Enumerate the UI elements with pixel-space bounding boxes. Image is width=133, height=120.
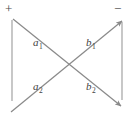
polarity-minus-sign: − [114, 2, 121, 15]
diagonal-downward-arrow [13, 19, 121, 106]
label-a2: a2 [33, 81, 42, 92]
label-b2-base: b [86, 80, 92, 92]
diagram-canvas [0, 0, 133, 120]
diagonal-upward-arrow [11, 21, 122, 112]
label-b1-subscript: 1 [92, 42, 96, 51]
label-b2: b2 [86, 81, 95, 92]
label-a1-subscript: 1 [39, 42, 43, 51]
label-b1-base: b [86, 36, 92, 48]
polarity-plus-sign: + [5, 2, 12, 15]
label-a1-base: a [33, 36, 39, 48]
crossed-pair-diagram: + − a1 b1 a2 b2 [0, 0, 133, 120]
label-a2-base: a [33, 80, 39, 92]
label-b2-subscript: 2 [92, 86, 96, 95]
label-b1: b1 [86, 37, 95, 48]
label-a1: a1 [33, 37, 42, 48]
label-a2-subscript: 2 [39, 86, 43, 95]
